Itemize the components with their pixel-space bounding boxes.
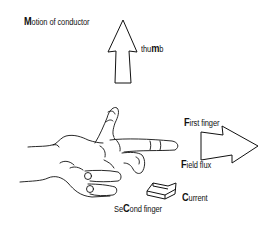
label-thumb: thumb	[141, 42, 163, 54]
label-field-flux: Field flux	[181, 158, 211, 170]
label-current: Current	[182, 191, 208, 203]
label-motion-of-conductor: Motion of conductor	[24, 15, 90, 27]
current-arrow-icon	[147, 183, 176, 199]
label-first-finger: First finger	[184, 116, 219, 128]
diagram-canvas	[0, 0, 275, 232]
motion-arrow-icon	[108, 20, 137, 83]
label-second-finger: SeCond finger	[114, 202, 162, 214]
